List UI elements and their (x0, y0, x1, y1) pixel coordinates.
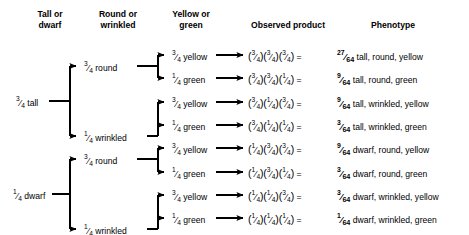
level3-5-label: green (183, 169, 205, 179)
level2-1-denominator: 4 (89, 137, 93, 144)
level1-tall-denominator: 4 (21, 102, 25, 109)
level3-5-denominator: 4 (177, 173, 181, 180)
level2-2-label: round (95, 156, 117, 166)
phenotype-label-0: tall, round, yellow (357, 52, 423, 62)
level3-4-label: yellow (183, 145, 207, 155)
level1-node-tall: 3⁄4 tall (16, 95, 38, 109)
level2-0-label: round (95, 63, 117, 73)
level3-7-denominator: 4 (177, 219, 181, 226)
phenotype-row-0: 27⁄64 tall, round, yellow (337, 49, 423, 63)
phenotype-row-1: 9⁄64 tall, round, green (337, 72, 417, 86)
level1-dwarf-denominator: 4 (18, 195, 22, 202)
header-trait2-line2: wrinkled (77, 20, 159, 31)
level3-0-fraction: 3⁄4 (172, 49, 181, 63)
phenotype-row-7: 1⁄64 dwarf, wrinkled, green (337, 212, 437, 226)
result-fraction-7: 1⁄64 (337, 212, 350, 226)
observed-product-row-0: (3⁄4)(3⁄4)(3⁄4) = (248, 49, 301, 63)
level3-4-denominator: 4 (177, 149, 181, 156)
phenotype-label-7: dwarf, wrinkled, green (353, 215, 437, 225)
level2-2-denominator: 4 (89, 160, 93, 167)
phenotype-row-3: 3⁄64 tall, wrinkled, green (337, 119, 427, 133)
level3-3-fraction: 1⁄4 (172, 119, 181, 133)
phenotype-row-4: 9⁄64 dwarf, round, yellow (337, 142, 429, 156)
level2-node-3: 1⁄4 wrinkled (84, 223, 127, 235)
level2-3-fraction: 1⁄4 (84, 223, 93, 235)
phenotype-label-2: tall, wrinkled, yellow (353, 99, 429, 109)
header-phenotype-label: Phenotype (360, 20, 426, 31)
phenotype-label-1: tall, round, green (353, 75, 418, 85)
level2-3-numerator: 1 (84, 223, 88, 230)
observed-product-row-1: (3⁄4)(3⁄4)(1⁄4) = (248, 72, 301, 86)
level2-2-numerator: 3 (84, 153, 88, 160)
phenotype-row-2: 9⁄64 tall, wrinkled, yellow (337, 96, 429, 110)
level1-tall-numerator: 3 (16, 95, 20, 102)
header-trait2-line1: Round or (77, 9, 159, 20)
phenotype-label-3: tall, wrinkled, green (353, 122, 427, 132)
level2-1-fraction: 1⁄4 (84, 130, 93, 144)
level3-6-label: yellow (183, 192, 207, 202)
level3-2-denominator: 4 (177, 103, 181, 110)
equals-sign-5: = (296, 169, 301, 179)
result-fraction-0: 27⁄64 (337, 49, 354, 63)
observed-product-row-5: (1⁄4)(3⁄4)(1⁄4) = (248, 166, 301, 180)
equals-sign-6: = (296, 192, 301, 202)
observed-product-row-3: (3⁄4)(1⁄4)(1⁄4) = (248, 119, 301, 133)
header-trait2: Round or wrinkled (77, 9, 159, 30)
dihybrid-cross-diagram: Tall or dwarf Round or wrinkled Yellow o… (0, 0, 469, 235)
equals-sign-2: = (296, 99, 301, 109)
level3-6-fraction: 3⁄4 (172, 189, 181, 203)
level3-3-label: green (183, 122, 205, 132)
equals-sign-0: = (296, 52, 301, 62)
level3-5-fraction: 1⁄4 (172, 166, 181, 180)
phenotype-label-6: dwarf, wrinkled, yellow (353, 192, 439, 202)
header-trait3: Yellow or green (152, 9, 230, 30)
phenotype-label-5: dwarf, round, green (353, 169, 428, 179)
result-fraction-4: 9⁄64 (337, 142, 350, 156)
level2-1-label: wrinkled (95, 133, 127, 143)
header-trait1: Tall or dwarf (14, 9, 86, 30)
equals-sign-7: = (296, 215, 301, 225)
level2-node-0: 3⁄4 round (84, 60, 117, 74)
level2-node-2: 3⁄4 round (84, 153, 117, 167)
level3-node-2: 3⁄4 yellow (172, 96, 207, 110)
header-trait1-line1: Tall or (14, 9, 86, 20)
result-fraction-3: 3⁄64 (337, 119, 350, 133)
level3-2-numerator: 3 (172, 96, 176, 103)
level3-node-4: 3⁄4 yellow (172, 142, 207, 156)
level3-node-0: 3⁄4 yellow (172, 49, 207, 63)
level1-dwarf-fraction: 1⁄4 (13, 188, 22, 202)
level1-tall-label: tall (27, 98, 38, 108)
header-observed-product-label: Observed product (238, 20, 338, 31)
level3-3-denominator: 4 (177, 126, 181, 133)
level2-2-fraction: 3⁄4 (84, 153, 93, 167)
level3-7-numerator: 1 (172, 212, 176, 219)
observed-product-row-2: (3⁄4)(1⁄4)(3⁄4) = (248, 96, 301, 110)
level1-dwarf-label: dwarf (24, 191, 45, 201)
header-trait3-line1: Yellow or (152, 9, 230, 20)
header-trait1-line2: dwarf (14, 20, 86, 31)
observed-product-row-4: (1⁄4)(3⁄4)(3⁄4) = (248, 142, 301, 156)
level3-0-label: yellow (183, 52, 207, 62)
level2-3-label: wrinkled (95, 226, 127, 235)
level3-2-fraction: 3⁄4 (172, 96, 181, 110)
equals-sign-4: = (296, 145, 301, 155)
level2-0-denominator: 4 (89, 67, 93, 74)
level3-7-fraction: 1⁄4 (172, 212, 181, 226)
result-fraction-2: 9⁄64 (337, 96, 350, 110)
level3-1-numerator: 1 (172, 72, 176, 79)
level3-node-7: 1⁄4 green (172, 212, 205, 226)
level3-7-label: green (183, 215, 205, 225)
phenotype-row-6: 3⁄64 dwarf, wrinkled, yellow (337, 189, 439, 203)
level3-node-1: 1⁄4 green (172, 72, 205, 86)
equals-sign-1: = (296, 75, 301, 85)
result-fraction-1: 9⁄64 (337, 72, 350, 86)
level3-0-denominator: 4 (177, 56, 181, 63)
level3-node-6: 3⁄4 yellow (172, 189, 207, 203)
phenotype-row-5: 3⁄64 dwarf, round, green (337, 166, 427, 180)
header-trait3-line2: green (152, 20, 230, 31)
level3-3-numerator: 1 (172, 119, 176, 126)
level3-6-denominator: 4 (177, 196, 181, 203)
level3-4-fraction: 3⁄4 (172, 142, 181, 156)
header-observed-product: Observed product (238, 20, 338, 31)
result-fraction-5: 3⁄64 (337, 166, 350, 180)
